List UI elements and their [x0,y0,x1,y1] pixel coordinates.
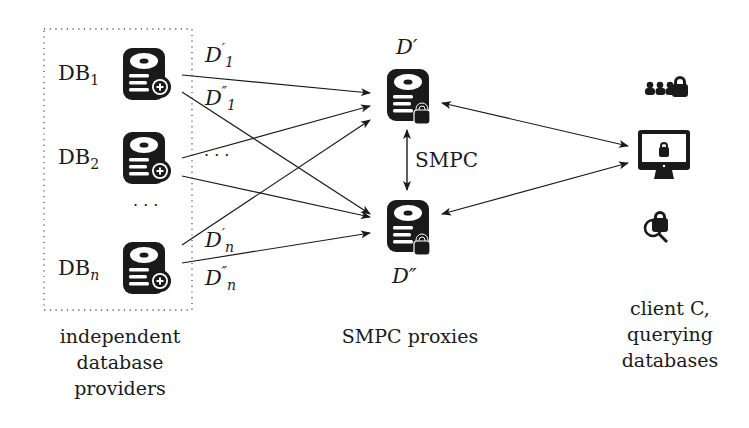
share-d1-prime: D′1 [205,45,234,66]
proxy-top-lock-db-icon [387,69,430,124]
db1-icon [123,48,171,100]
proxy-top-label: D′ [396,37,418,58]
client-proxy-top-arrow [442,103,628,146]
providers-caption: independent database providers [50,323,190,401]
proxy-bottom-label: D″ [392,266,417,287]
client-caption: client C, querying databases [610,295,730,373]
share-ellipsis: · · · [204,148,229,164]
search-lock-icon [645,211,668,242]
proxy-bottom-lock-db-icon [387,200,430,255]
dbn-label: DBn [58,258,99,279]
smpc-link-label: SMPC [415,150,478,170]
monitor-lock-icon [638,130,690,179]
users-lock-icon [645,76,688,97]
db1-label: DB1 [58,63,99,84]
share-dn-doubleprime: D″n [205,268,236,289]
proxies-caption: SMPC proxies [335,323,485,349]
share-d1-doubleprime: D″1 [205,88,236,109]
db2-icon [123,132,171,184]
db2-label: DB2 [58,147,99,168]
providers-ellipsis: · · · [133,198,158,214]
dbn-icon [123,242,171,294]
share-dn-prime: D′n [205,230,234,251]
